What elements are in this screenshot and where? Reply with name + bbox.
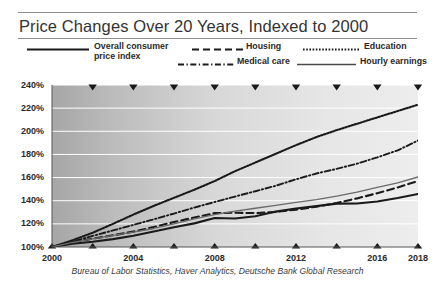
chart-legend: Overall consumer price index Housing Edu… bbox=[0, 41, 435, 71]
y-axis-tick-label: 100% bbox=[10, 243, 44, 252]
legend-label-overall-consumer-price-index: Overall consumer price index bbox=[94, 41, 182, 61]
x-axis-tick-label: 2008 bbox=[195, 254, 235, 263]
legend-label-housing: Housing bbox=[246, 41, 281, 51]
chart-page: Price Changes Over 20 Years, Indexed to … bbox=[0, 0, 435, 292]
x-axis-tick-label: 2018 bbox=[398, 254, 435, 263]
y-axis-tick-label: 220% bbox=[10, 104, 44, 113]
legend-swatch-hourly-earnings bbox=[297, 60, 356, 69]
x-axis-tick-label: 2012 bbox=[276, 254, 316, 263]
y-axis-tick-label: 140% bbox=[10, 196, 44, 205]
y-axis-tick-label: 240% bbox=[10, 81, 44, 90]
chart-plot-area: 100%120%140%160%180%200%220%240% 2000200… bbox=[0, 72, 435, 272]
chart-svg bbox=[0, 72, 435, 272]
y-axis-tick-label: 160% bbox=[10, 173, 44, 182]
legend-swatch-medical-care bbox=[178, 60, 234, 69]
title-rule-bottom bbox=[18, 38, 417, 39]
x-axis-tick-label: 2004 bbox=[113, 254, 153, 263]
page-title: Price Changes Over 20 Years, Indexed to … bbox=[19, 14, 419, 38]
legend-swatch-education bbox=[303, 45, 360, 54]
plot-background bbox=[52, 85, 418, 247]
y-axis-tick-label: 180% bbox=[10, 150, 44, 159]
legend-label-hourly-earnings: Hourly earnings bbox=[360, 56, 427, 66]
legend-label-education: Education bbox=[364, 41, 407, 51]
x-axis-tick-label: 2000 bbox=[32, 254, 72, 263]
legend-swatch-overall-consumer-price-index bbox=[27, 45, 89, 54]
title-rule-top bbox=[18, 12, 417, 13]
x-axis-tick-label: 2016 bbox=[357, 254, 397, 263]
y-axis-tick-label: 200% bbox=[10, 127, 44, 136]
legend-label-medical-care: Medical care bbox=[237, 56, 290, 66]
chart-source-note: Bureau of Labor Statistics, Haver Analyt… bbox=[0, 266, 435, 276]
y-axis-tick-label: 120% bbox=[10, 219, 44, 228]
legend-swatch-housing bbox=[192, 45, 244, 54]
